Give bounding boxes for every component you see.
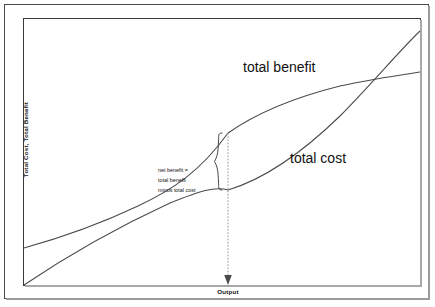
net-benefit-annotation-line-1: net benefit = xyxy=(158,166,195,176)
curve-label-total-cost: total cost xyxy=(290,150,346,166)
figure-container: Total Cost, Total Benefit Output total b… xyxy=(0,0,435,307)
curve-label-total-benefit: total benefit xyxy=(243,59,315,75)
chart-canvas xyxy=(0,0,435,307)
curve-total-cost xyxy=(24,31,420,285)
curve-total-benefit xyxy=(24,72,420,248)
net-benefit-annotation-line-2: total benefit xyxy=(158,176,195,186)
net-benefit-annotation-line-3: minus total cost xyxy=(158,186,195,196)
net-benefit-brace xyxy=(215,133,223,190)
net-benefit-annotation: net benefit = total benefit minus total … xyxy=(158,166,195,195)
dropline-arrowhead xyxy=(224,275,232,285)
x-axis-label: Output xyxy=(178,288,278,295)
y-axis-label: Total Cost, Total Benefit xyxy=(22,85,29,195)
